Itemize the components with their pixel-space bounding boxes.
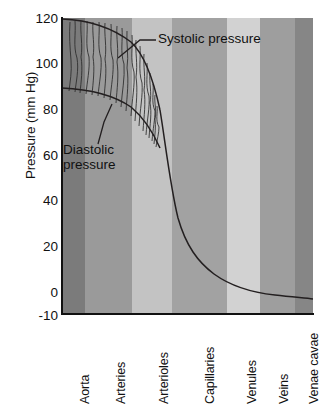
systolic-annotation-label: Systolic pressure	[158, 31, 261, 46]
y-tick-label: 40	[24, 194, 58, 208]
x-tick-label-capillaries: Capillaries	[203, 347, 217, 404]
y-tick-label: 120	[24, 12, 58, 26]
diastolic-annotation-label-line1: Diastolic	[63, 142, 116, 157]
band-veins	[260, 18, 295, 314]
y-tick-label: 60	[24, 149, 58, 163]
y-tick-label: 100	[24, 57, 58, 71]
diastolic-annotation-label-line2: pressure	[63, 157, 116, 172]
diastolic-pressure-annotation: Diastolic pressure	[63, 142, 116, 172]
y-tick-label: 20	[24, 240, 58, 254]
band-arterioles	[132, 18, 172, 314]
band-venules	[227, 18, 260, 314]
y-axis-tick-labels: 120 100 80 60 40 20 0 -10	[18, 0, 58, 419]
x-tick-label-aorta: Aorta	[78, 375, 92, 404]
x-tick-label-arterioles: Arterioles	[157, 352, 171, 404]
band-venae-cavae	[295, 18, 313, 314]
blood-pressure-chart: Pressure (mm Hg) 120 100 80 60 40 20 0 -…	[0, 0, 330, 419]
y-tick-label: -10	[24, 309, 58, 323]
systolic-pressure-annotation: Systolic pressure	[158, 31, 261, 46]
y-tick-label: 80	[24, 103, 58, 117]
x-tick-label-arteries: Arteries	[114, 362, 128, 404]
band-capillaries	[172, 18, 227, 314]
x-tick-label-veins: Veins	[277, 374, 291, 404]
x-tick-label-venae-cavae: Venae cavae	[307, 333, 321, 404]
y-tick-label: 0	[24, 286, 58, 300]
x-tick-label-venules: Venules	[245, 360, 259, 404]
